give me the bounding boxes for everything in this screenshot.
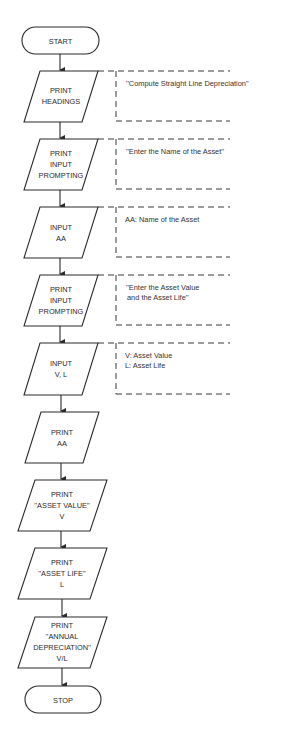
print-asset-value-box: PRINT ''ASSET VALUE'' V xyxy=(18,480,107,531)
annotation-text: AA: Name of the Asset xyxy=(125,215,199,224)
node-label: PRINT xyxy=(50,149,73,158)
print-asset-life-box: PRINT ''ASSET LIFE'' L xyxy=(18,548,107,599)
print-aa-box: PRINT AA xyxy=(25,412,99,463)
annotation-text: ''Compute Straight Line Depreciation'' xyxy=(126,79,249,88)
node-label: V/L xyxy=(56,654,67,663)
annotation-bracket: ''Enter the Name of the Asset'' xyxy=(98,139,230,189)
print-prompt-name-box: PRINT INPUT PROMPTING xyxy=(24,139,98,190)
node-label: ''ANNUAL xyxy=(46,632,79,641)
node-label: INPUT xyxy=(50,296,73,305)
node-label: PRINT xyxy=(51,490,74,499)
node-label: PRINT xyxy=(50,285,73,294)
input-vl-box: INPUT V, L xyxy=(24,343,98,395)
node-label: PROMPTING xyxy=(39,171,84,180)
start-terminator: START xyxy=(22,27,99,54)
print-annual-depreciation-box: PRINT ''ANNUAL DEPRECIATION'' V/L xyxy=(18,617,107,668)
node-label: V, L xyxy=(55,370,67,379)
annotation-text: L: Asset Life xyxy=(125,361,165,370)
node-label: HEADINGS xyxy=(42,97,81,106)
print-prompt-value-life-box: PRINT INPUT PROMPTING xyxy=(24,275,98,326)
annotation-text: ''Enter the Name of the Asset'' xyxy=(126,147,225,156)
annotation-bracket: ''Compute Straight Line Depreciation'' xyxy=(98,71,249,121)
node-label: PROMPTING xyxy=(39,307,84,316)
node-label: INPUT xyxy=(50,160,73,169)
node-label: PRINT xyxy=(51,558,74,567)
node-label: PRINT xyxy=(51,621,74,630)
node-label: AA xyxy=(56,234,66,243)
stop-label: STOP xyxy=(53,696,73,705)
node-label: PRINT xyxy=(50,86,73,95)
annotation-bracket: AA: Name of the Asset xyxy=(98,207,230,257)
start-label: START xyxy=(49,37,73,46)
flowchart: START PRINT HEADINGS ''Compute Straight … xyxy=(0,0,281,739)
node-label: ''ASSET VALUE'' xyxy=(34,501,90,510)
stop-terminator: STOP xyxy=(25,686,101,713)
print-headings-box: PRINT HEADINGS xyxy=(24,71,98,122)
annotation-bracket: V: Asset Value L: Asset Life xyxy=(98,343,230,394)
annotation-text: V: Asset Value xyxy=(125,351,172,360)
node-label: L xyxy=(60,580,64,589)
node-label: V xyxy=(60,512,65,521)
node-label: INPUT xyxy=(50,359,73,368)
annotation-text: and the Asset Life'' xyxy=(127,293,189,302)
annotation-bracket: ''Enter the Asset Value and the Asset Li… xyxy=(98,275,230,325)
node-label: ''ASSET LIFE'' xyxy=(38,569,86,578)
node-label: AA xyxy=(57,439,67,448)
annotation-text: ''Enter the Asset Value xyxy=(126,283,199,292)
input-aa-box: INPUT AA xyxy=(24,207,98,258)
node-label: PRINT xyxy=(51,428,74,437)
node-label: DEPRECIATION'' xyxy=(33,643,91,652)
node-label: INPUT xyxy=(50,223,73,232)
